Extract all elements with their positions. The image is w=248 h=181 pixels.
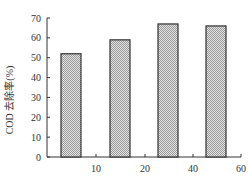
- bar-chart: 010203040506070 10204060 COD 去除率(%): [0, 0, 248, 181]
- y-tick-label: 40: [31, 72, 41, 83]
- bars: [61, 24, 226, 157]
- x-tick-label: 20: [140, 163, 150, 174]
- x-tick-label: 10: [91, 163, 101, 174]
- bar: [110, 40, 130, 157]
- y-tick-label: 10: [31, 132, 41, 143]
- x-tick-label: 60: [236, 163, 246, 174]
- y-tick-label: 0: [36, 152, 41, 163]
- y-tick-label: 60: [31, 32, 41, 43]
- y-tick-label: 50: [31, 52, 41, 63]
- y-axis: 010203040506070: [31, 13, 50, 163]
- y-axis-label: COD 去除率(%): [3, 66, 16, 135]
- bar: [158, 24, 178, 157]
- y-tick-label: 20: [31, 112, 41, 123]
- x-tick-label: 40: [188, 163, 198, 174]
- bar: [61, 54, 81, 157]
- y-tick-label: 30: [31, 92, 41, 103]
- bar: [206, 26, 226, 157]
- y-tick-label: 70: [31, 13, 41, 24]
